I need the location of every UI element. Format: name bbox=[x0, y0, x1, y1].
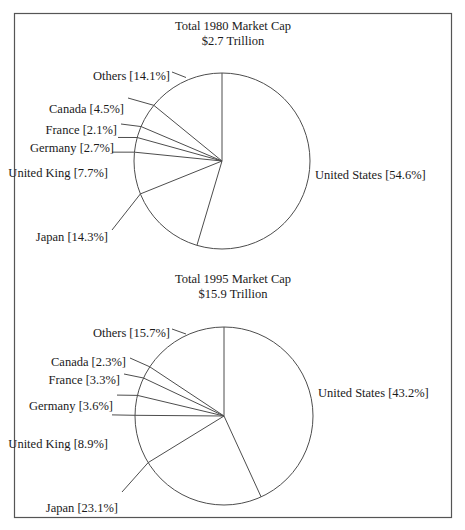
pie-1980-label-others: Others [14.1%] bbox=[93, 69, 170, 83]
chart-1995-title: Total 1995 Market Cap bbox=[175, 272, 291, 286]
pie-1980-label-canada: Canada [4.5%] bbox=[49, 102, 124, 116]
pie-1995-label-france: France [3.3%] bbox=[49, 373, 121, 387]
pie-1995-label-germany: Germany [3.6%] bbox=[29, 399, 113, 413]
chart-1995-subtitle: $15.9 Trillion bbox=[199, 287, 269, 301]
pie-1995-label-united-states: United States [43.2%] bbox=[318, 386, 429, 400]
pie-1995-label-others: Others [15.7%] bbox=[93, 326, 170, 340]
pie-1980-label-france: France [2.1%] bbox=[46, 123, 118, 137]
pie-1980-label-japan: Japan [14.3%] bbox=[36, 230, 108, 244]
chart-1980-subtitle: $2.7 Trillion bbox=[202, 34, 265, 48]
pie-1980-label-united-states: United States [54.6%] bbox=[315, 168, 426, 182]
pie-1980-label-united-king: United King [7.7%] bbox=[8, 166, 108, 180]
pie-1995-label-united-king: United King [8.9%] bbox=[8, 437, 108, 451]
pie-1995-divider-united-king bbox=[135, 415, 224, 416]
pie-1995-label-canada: Canada [2.3%] bbox=[51, 355, 126, 369]
pie-1995-label-japan: Japan [23.1%] bbox=[46, 501, 118, 515]
market-cap-figure: Total 1980 Market Cap $2.7 Trillion Unit… bbox=[0, 0, 465, 530]
pie-1980-label-germany: Germany [2.7%] bbox=[30, 141, 114, 155]
chart-1980-title: Total 1980 Market Cap bbox=[175, 19, 291, 33]
